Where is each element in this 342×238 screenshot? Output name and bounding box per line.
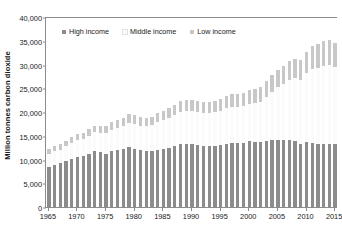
bar-segment: [167, 118, 170, 147]
bar-segment: [150, 125, 153, 151]
bar-segment: [293, 78, 296, 140]
bar-segment: [242, 143, 245, 207]
bar-segment: [110, 130, 113, 151]
bar-segment: [127, 114, 130, 123]
bar-segment: [139, 126, 142, 151]
x-axis-tick-mark: [191, 207, 192, 211]
y-axis-tick-label: 40,000: [19, 14, 46, 23]
bar-segment: [236, 143, 239, 207]
bar-segment: [173, 146, 176, 207]
legend-item[interactable]: Middle income: [123, 27, 176, 36]
bar-segment: [185, 144, 188, 207]
bar-stack: [127, 17, 130, 207]
bar-segment: [196, 145, 199, 207]
legend-label: Middle income: [130, 27, 176, 36]
bar-segment: [185, 111, 188, 144]
bar-segment: [150, 151, 153, 207]
bar-segment: [305, 73, 308, 142]
bar-segment: [253, 89, 256, 103]
bar-segment: [213, 112, 216, 145]
bar-stack: [196, 17, 199, 207]
bar-stack: [179, 17, 182, 207]
bar-segment: [230, 94, 233, 107]
bar-stack: [282, 17, 285, 207]
bar-segment: [162, 149, 165, 207]
bar-stack: [322, 17, 325, 207]
bar-segment: [276, 87, 279, 139]
bar-segment: [316, 68, 319, 144]
bar-segment: [248, 104, 251, 142]
legend-swatch-icon: [190, 30, 194, 34]
bar-segment: [293, 141, 296, 208]
bar-segment: [104, 126, 107, 133]
legend-label: High income: [69, 27, 109, 36]
x-axis-tick-label: 1975: [97, 212, 113, 221]
bar-segment: [156, 122, 159, 150]
x-axis-tick-label: 1970: [68, 212, 84, 221]
bar-segment: [139, 117, 142, 126]
bar-stack: [333, 17, 336, 207]
legend-item[interactable]: Low income: [190, 27, 235, 36]
y-axis-tick-label: 15,000: [19, 132, 46, 141]
bar-stack: [265, 17, 268, 207]
bar-segment: [122, 118, 125, 126]
bar-segment: [202, 102, 205, 113]
legend-swatch-icon: [62, 30, 66, 34]
y-axis-title-text: Million tonnes carbon dioxide: [3, 51, 12, 160]
bar-segment: [276, 140, 279, 207]
bar-segment: [64, 146, 67, 161]
x-axis-tick-mark: [306, 207, 307, 211]
bar-segment: [133, 115, 136, 124]
bar-segment: [47, 154, 50, 167]
bar-segment: [328, 65, 331, 143]
bar-segment: [167, 108, 170, 118]
bar-stack: [185, 17, 188, 207]
bar-stack: [213, 17, 216, 207]
bar-segment: [76, 140, 79, 157]
bar-segment: [127, 123, 130, 147]
bar-segment: [99, 126, 102, 133]
bar-segment: [145, 151, 148, 207]
bar-segment: [236, 107, 239, 143]
bar-stack: [230, 17, 233, 207]
bar-segment: [133, 149, 136, 207]
bar-segment: [225, 144, 228, 207]
bar-stack: [305, 17, 308, 207]
bar-stack: [190, 17, 193, 207]
bar-segment: [190, 100, 193, 111]
bar-stack: [288, 17, 291, 207]
bar-segment: [225, 108, 228, 144]
bars-layer: [46, 18, 337, 207]
legend-item[interactable]: High income: [62, 27, 109, 36]
bar-stack: [293, 17, 296, 207]
bar-segment: [213, 146, 216, 207]
bar-segment: [265, 141, 268, 207]
bar-segment: [185, 100, 188, 111]
y-axis-tick-label: 25,000: [19, 85, 46, 94]
bar-segment: [259, 87, 262, 101]
x-axis-tick-label: 2015: [326, 212, 342, 221]
bar-segment: [328, 144, 331, 207]
bar-segment: [179, 144, 182, 207]
x-axis-tick-label: 1995: [211, 212, 227, 221]
bar-stack: [167, 17, 170, 207]
bar-segment: [282, 84, 285, 140]
bar-segment: [53, 151, 56, 164]
bar-segment: [225, 96, 228, 109]
bar-segment: [282, 140, 285, 207]
plot-area: 05,00010,00015,00020,00025,00030,00035,0…: [45, 17, 337, 207]
bar-segment: [242, 106, 245, 143]
bar-segment: [202, 146, 205, 207]
x-axis-tick-label: 1980: [126, 212, 142, 221]
bar-segment: [316, 44, 319, 68]
x-axis-tick-label: 2010: [297, 212, 313, 221]
bar-stack: [145, 17, 148, 207]
bar-segment: [213, 101, 216, 113]
bar-segment: [259, 102, 262, 142]
bar-segment: [276, 70, 279, 87]
y-axis-tick-label: 10,000: [19, 156, 46, 165]
bar-stack: [116, 17, 119, 207]
bar-segment: [299, 80, 302, 144]
bar-segment: [202, 113, 205, 145]
bar-segment: [110, 122, 113, 130]
